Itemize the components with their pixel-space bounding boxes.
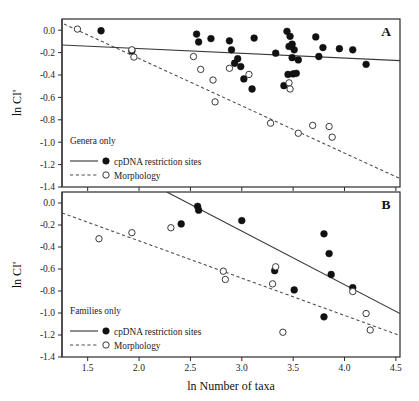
data-point-morphology <box>190 53 196 59</box>
data-point-morphology <box>197 66 203 72</box>
data-point-cpdna <box>195 39 202 46</box>
data-point-morphology <box>367 327 373 333</box>
data-point-morphology <box>222 276 228 282</box>
y-tick-label: 0.0 <box>43 198 55 208</box>
data-point-morphology <box>212 99 218 105</box>
data-point-cpdna <box>251 35 258 42</box>
figure-container: 0.0-0.2-0.4-0.6-0.8-1.0-1.2-1.4 0.0-0.2-… <box>0 0 419 401</box>
panel-b-legend-open-marker <box>103 342 109 348</box>
y-tick-label: -1.0 <box>40 308 55 318</box>
data-point-morphology <box>326 123 332 129</box>
data-point-cpdna <box>315 53 322 60</box>
panel-a-legend-filled-marker <box>103 158 110 165</box>
y-tick-label: -1.0 <box>40 138 55 148</box>
data-point-morphology <box>210 77 216 83</box>
data-point-morphology <box>269 281 275 287</box>
data-point-cpdna <box>321 313 328 320</box>
data-point-morphology <box>96 236 102 242</box>
panel-a-ticks: 0.0-0.2-0.4-0.6-0.8-1.0-1.2-1.4 <box>40 26 62 193</box>
data-point-cpdna <box>293 70 300 77</box>
data-point-morphology <box>309 122 315 128</box>
panel-b-y-axis-title: ln CI' <box>10 262 24 289</box>
data-point-morphology <box>74 26 80 32</box>
y-tick-label: -0.4 <box>40 70 55 80</box>
y-tick-label: -0.8 <box>40 115 55 125</box>
y-tick-label: -0.2 <box>40 48 55 58</box>
data-point-morphology <box>350 288 356 294</box>
data-point-cpdna <box>349 46 356 53</box>
y-tick-label: -1.4 <box>40 182 55 192</box>
data-point-morphology <box>129 230 135 236</box>
panel-a-legend-open-marker <box>103 172 109 178</box>
panel-b-legend-label-cpdna: cpDNA restriction sites <box>114 327 202 337</box>
data-point-cpdna <box>195 207 202 214</box>
data-point-cpdna <box>249 86 256 93</box>
x-tick-label: 4.0 <box>339 363 351 373</box>
data-point-morphology <box>329 134 335 140</box>
data-point-morphology <box>226 65 232 71</box>
panel-a-legend-title: Genera only <box>70 136 116 146</box>
y-tick-label: -1.2 <box>40 160 55 170</box>
y-tick-label: -0.4 <box>40 242 55 252</box>
x-axis-title: ln Number of taxa <box>187 379 275 393</box>
data-point-cpdna <box>289 54 296 61</box>
data-point-cpdna <box>328 271 335 278</box>
data-point-cpdna <box>237 63 244 70</box>
data-point-cpdna <box>272 50 279 57</box>
data-point-cpdna <box>234 55 241 62</box>
y-tick-label: 0.0 <box>43 26 55 36</box>
data-point-cpdna <box>208 35 215 42</box>
data-point-cpdna <box>336 45 343 52</box>
data-point-cpdna <box>320 44 327 51</box>
panel-a-legend-label-morphology: Morphology <box>114 171 161 181</box>
y-tick-label: -0.2 <box>40 220 55 230</box>
data-point-cpdna <box>291 287 298 294</box>
panel-a-frame <box>62 19 400 187</box>
data-point-cpdna <box>238 217 245 224</box>
x-tick-label: 3.0 <box>236 363 248 373</box>
panel-a-y-axis-title: ln CI' <box>10 90 24 117</box>
panel-b-letter: B <box>381 197 390 212</box>
data-point-morphology <box>272 264 278 270</box>
data-point-cpdna <box>291 46 298 53</box>
scatter-plot-figure: 0.0-0.2-0.4-0.6-0.8-1.0-1.2-1.4 0.0-0.2-… <box>0 0 419 401</box>
data-point-cpdna <box>363 61 370 68</box>
data-point-cpdna <box>98 27 105 34</box>
y-tick-label: -0.6 <box>40 93 55 103</box>
x-tick-label: 4.5 <box>390 363 402 373</box>
data-point-morphology <box>267 120 273 126</box>
data-point-cpdna <box>193 31 200 38</box>
data-point-cpdna <box>226 37 233 44</box>
data-point-morphology <box>286 80 292 86</box>
panel-a-letter: A <box>381 24 391 39</box>
data-point-morphology <box>168 225 174 231</box>
data-point-morphology <box>129 47 135 53</box>
data-point-morphology <box>280 329 286 335</box>
data-point-cpdna <box>321 230 328 237</box>
data-point-cpdna <box>178 221 185 228</box>
data-point-morphology <box>295 130 301 136</box>
x-tick-label: 2.5 <box>184 363 196 373</box>
y-tick-label: -0.8 <box>40 286 55 296</box>
data-point-cpdna <box>295 56 302 63</box>
panel-b-legend-label-morphology: Morphology <box>114 341 161 351</box>
y-tick-label: -0.6 <box>40 264 55 274</box>
data-point-morphology <box>131 54 137 60</box>
data-point-morphology <box>246 71 252 77</box>
data-point-cpdna <box>287 33 294 40</box>
x-tick-label: 2.0 <box>133 363 145 373</box>
data-point-cpdna <box>228 46 235 53</box>
data-point-cpdna <box>312 34 319 41</box>
data-point-morphology <box>220 268 226 274</box>
y-tick-label: -1.2 <box>40 330 55 340</box>
panel-b-legend-title: Families only <box>70 306 121 316</box>
panel-a-legend-label-cpdna: cpDNA restriction sites <box>114 157 202 167</box>
x-tick-label: 3.5 <box>287 363 299 373</box>
y-tick-label: -1.4 <box>40 352 55 362</box>
data-point-morphology <box>363 310 369 316</box>
data-point-morphology <box>287 86 293 92</box>
panel-b-ticks: 0.0-0.2-0.4-0.6-0.8-1.0-1.2-1.4 <box>40 198 62 362</box>
data-point-cpdna <box>326 250 333 257</box>
x-tick-label: 1.5 <box>82 363 94 373</box>
panel-b-legend-filled-marker <box>103 328 110 335</box>
